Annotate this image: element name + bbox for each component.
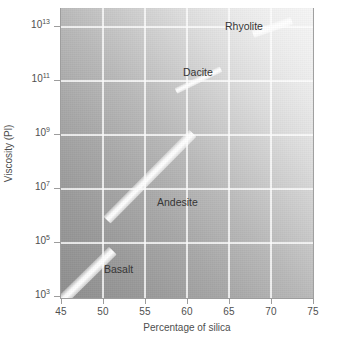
y-ticklabel-1e13-exponent: 13 xyxy=(42,18,50,25)
series-label-andesite: Andesite xyxy=(157,196,198,208)
y-axis-title: Viscosity (Pl) xyxy=(4,124,15,182)
y-tick-1e13 xyxy=(54,26,60,27)
y-ticklabel-1e5-exponent: 5 xyxy=(46,234,50,241)
series-label-dacite: Dacite xyxy=(183,66,213,78)
y-tick-1e9 xyxy=(54,134,60,135)
series-label-basalt: Basalt xyxy=(104,263,133,275)
gridline-x-65 xyxy=(228,8,230,298)
y-tick-1e3 xyxy=(54,296,60,297)
x-tick-70 xyxy=(271,299,272,304)
x-ticklabel-70: 70 xyxy=(251,306,291,317)
x-ticklabel-60: 60 xyxy=(167,306,207,317)
series-label-rhyolite: Rhyolite xyxy=(225,20,263,32)
x-axis-title: Percentage of silica xyxy=(61,322,313,333)
y-ticklabel-1e5-mantissa: 10 xyxy=(35,235,46,246)
gridline-x-60 xyxy=(186,8,188,298)
x-tick-45 xyxy=(61,299,62,304)
y-ticklabel-1e9-exponent: 9 xyxy=(46,126,50,133)
x-ticklabel-65: 65 xyxy=(209,306,249,317)
y-tick-1e11 xyxy=(54,80,60,81)
y-axis-line xyxy=(60,8,61,299)
y-ticklabel-1e7-mantissa: 10 xyxy=(35,181,46,192)
x-tick-75 xyxy=(313,299,314,304)
gridline-y-1e5 xyxy=(61,242,313,244)
y-ticklabel-1e11-exponent: 11 xyxy=(43,72,50,79)
y-tick-1e5 xyxy=(54,242,60,243)
y-ticklabel-1e3-exponent: 3 xyxy=(46,288,50,295)
gridline-y-1e7 xyxy=(61,188,313,190)
x-tick-55 xyxy=(145,299,146,304)
x-ticklabel-45: 45 xyxy=(41,306,81,317)
band-andesite xyxy=(103,130,196,224)
x-tick-65 xyxy=(229,299,230,304)
x-ticklabel-55: 55 xyxy=(125,306,165,317)
gridline-x-70 xyxy=(270,8,272,298)
gridline-x-55 xyxy=(144,8,146,298)
y-tick-1e7 xyxy=(54,188,60,189)
x-tick-50 xyxy=(103,299,104,304)
x-ticklabel-50: 50 xyxy=(83,306,123,317)
plot-area: Basalt Andesite Dacite Rhyolite xyxy=(61,8,314,298)
y-ticklabel-1e9-mantissa: 10 xyxy=(35,127,46,138)
y-ticklabel-1e11-mantissa: 10 xyxy=(32,73,43,84)
y-axis-title-wrap: Viscosity (Pl) xyxy=(0,0,18,306)
y-ticklabel-1e13-mantissa: 10 xyxy=(31,19,42,30)
y-ticklabel-1e3-mantissa: 10 xyxy=(35,289,46,300)
y-ticklabel-1e7-exponent: 7 xyxy=(46,180,50,187)
x-ticklabel-75: 75 xyxy=(293,306,333,317)
x-tick-60 xyxy=(187,299,188,304)
viscosity-silica-chart: Basalt Andesite Dacite Rhyolite 45 50 55… xyxy=(0,0,338,341)
